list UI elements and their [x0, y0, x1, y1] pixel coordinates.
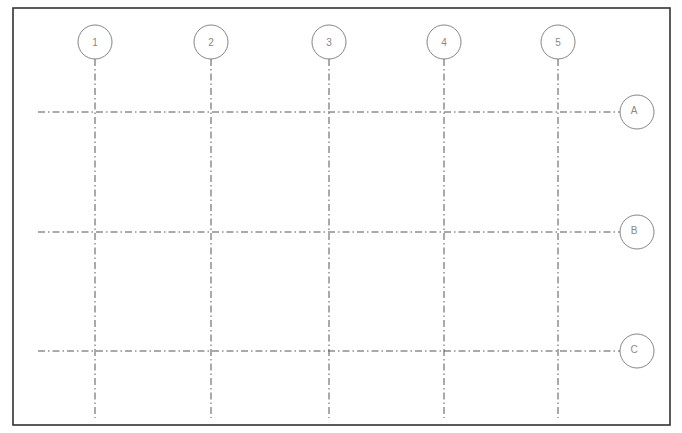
row-label: A: [631, 105, 638, 116]
row-grid-bubbles: ABC: [620, 95, 654, 368]
column-label: 2: [208, 37, 214, 48]
row-bubble-C: C: [620, 334, 654, 368]
row-label: C: [630, 344, 637, 355]
row-label: B: [631, 225, 638, 236]
column-bubble-2: 2: [194, 25, 228, 59]
grid-diagram: 12345 ABC: [0, 0, 682, 433]
column-grid-lines: [95, 59, 558, 418]
column-label: 4: [441, 37, 447, 48]
row-bubble-B: B: [620, 215, 654, 249]
column-bubble-5: 5: [541, 25, 575, 59]
column-bubble-1: 1: [78, 25, 112, 59]
row-bubble-A: A: [620, 95, 654, 129]
column-label: 5: [555, 37, 561, 48]
drawing-frame: [13, 8, 670, 425]
column-bubble-3: 3: [312, 25, 346, 59]
column-grid-bubbles: 12345: [78, 25, 575, 59]
column-label: 3: [326, 37, 332, 48]
column-bubble-4: 4: [427, 25, 461, 59]
column-label: 1: [92, 37, 98, 48]
